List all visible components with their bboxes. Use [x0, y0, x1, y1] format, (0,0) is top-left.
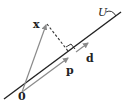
label-d: d	[86, 52, 94, 65]
vector-p	[22, 58, 68, 92]
u-label-hook	[106, 11, 116, 16]
label-x: x	[33, 18, 40, 31]
vector-x	[22, 25, 46, 92]
label-u: U	[98, 6, 108, 19]
projection-diagram: x p d 0 U	[0, 0, 122, 106]
label-origin: 0	[18, 90, 26, 103]
projection-dashed-line	[47, 24, 68, 51]
label-p: p	[66, 64, 74, 77]
line-u	[4, 12, 121, 99]
